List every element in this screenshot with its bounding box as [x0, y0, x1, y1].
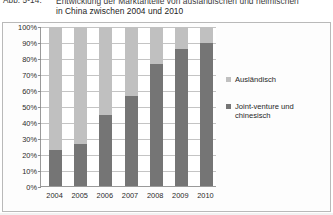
bar-group[interactable]	[74, 27, 87, 186]
bar-segment-domestic[interactable]	[99, 114, 112, 186]
bar-segment-foreign[interactable]	[175, 27, 188, 49]
y-axis-tick-label: 30%	[3, 135, 37, 144]
y-axis-tick-label: 0%	[3, 183, 37, 192]
figure-title-line-2: in China zwischen 2004 und 2010	[56, 6, 183, 16]
x-axis-tick-label: 2006	[92, 191, 118, 200]
bar-group[interactable]	[99, 27, 112, 186]
figure-title: Abb. 5-14: Entwicklung der Marktanteile …	[0, 0, 333, 24]
y-axis-tick-label: 100%	[3, 23, 37, 32]
legend-entry[interactable]: Joint-venture und chinesisch	[226, 102, 330, 121]
legend-label: Joint-venture und chinesisch	[235, 102, 330, 121]
y-axis-tickmark	[38, 187, 41, 188]
bar-group[interactable]	[175, 27, 188, 186]
bar-group[interactable]	[49, 27, 62, 186]
chart-legend: AusländischJoint-venture und chinesisch	[226, 75, 330, 138]
y-axis-tick-label: 10%	[3, 167, 37, 176]
gridline	[41, 187, 216, 188]
legend-entry[interactable]: Ausländisch	[226, 75, 330, 85]
legend-swatch-domestic	[226, 104, 231, 109]
y-axis-tick-label: 40%	[3, 119, 37, 128]
x-axis-tick-label: 2008	[142, 191, 168, 200]
y-axis-tick-label: 50%	[3, 103, 37, 112]
bar-series-layer	[41, 27, 216, 186]
figure-caption-label: Abb. 5-14:	[3, 0, 42, 5]
bar-segment-foreign[interactable]	[150, 27, 163, 64]
bar-segment-domestic[interactable]	[74, 143, 87, 186]
bar-segment-domestic[interactable]	[175, 48, 188, 186]
y-axis-tick-label: 90%	[3, 39, 37, 48]
legend-label: Ausländisch	[235, 75, 276, 85]
x-axis-tick-label: 2010	[192, 191, 218, 200]
bar-segment-domestic[interactable]	[200, 42, 213, 186]
y-axis-tick-labels: 0%10%20%30%40%50%60%70%80%90%100%	[3, 27, 37, 187]
bar-group[interactable]	[200, 27, 213, 186]
bar-group[interactable]	[125, 27, 138, 186]
bar-segment-foreign[interactable]	[200, 27, 213, 43]
bar-segment-foreign[interactable]	[99, 27, 112, 115]
x-axis-tick-label: 2004	[42, 191, 68, 200]
plot-area	[40, 27, 216, 187]
x-axis-tick-label: 2005	[67, 191, 93, 200]
x-axis-tick-label: 2007	[117, 191, 143, 200]
bar-segment-foreign[interactable]	[74, 27, 87, 144]
bar-segment-foreign[interactable]	[125, 27, 138, 96]
bar-segment-domestic[interactable]	[125, 95, 138, 186]
bar-segment-foreign[interactable]	[49, 27, 62, 150]
bar-segment-domestic[interactable]	[150, 63, 163, 186]
bar-segment-domestic[interactable]	[49, 149, 62, 186]
y-axis-tick-label: 70%	[3, 71, 37, 80]
y-axis-tick-label: 20%	[3, 151, 37, 160]
legend-swatch-foreign	[226, 77, 231, 82]
bar-group[interactable]	[150, 27, 163, 186]
chart-frame: 0%10%20%30%40%50%60%70%80%90%100% 200420…	[2, 22, 331, 212]
x-axis-tick-labels: 2004200520062007200820092010	[40, 191, 216, 205]
x-axis-tick-label: 2009	[167, 191, 193, 200]
y-axis-tick-label: 80%	[3, 55, 37, 64]
scan-edge-artifact	[0, 213, 333, 215]
y-axis-tick-label: 60%	[3, 87, 37, 96]
